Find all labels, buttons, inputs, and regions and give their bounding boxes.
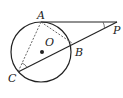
center-dot (40, 50, 44, 54)
label-c: C (8, 72, 17, 85)
geometry-diagram: A O B C P (0, 0, 123, 98)
label-o: O (45, 36, 54, 49)
angle-mark-c (22, 63, 27, 67)
label-b: B (74, 46, 83, 59)
angle-mark-p (103, 22, 105, 28)
label-a: A (36, 9, 45, 22)
label-p: P (112, 24, 121, 37)
secant-pc (18, 22, 117, 72)
